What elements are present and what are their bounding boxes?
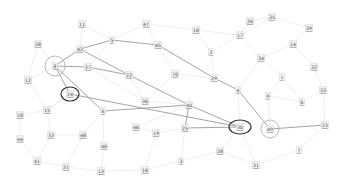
node-34[interactable]: 34: [257, 55, 265, 62]
node-9[interactable]: 9: [266, 93, 271, 100]
node-33[interactable]: 33: [319, 87, 327, 94]
node-14[interactable]: 14: [289, 41, 297, 48]
edge: [112, 24, 146, 40]
node-6b[interactable]: 6: [101, 108, 106, 115]
node-27[interactable]: 27: [84, 64, 92, 71]
edge: [181, 151, 220, 161]
node-label: 38: [35, 42, 41, 47]
node-46[interactable]: 46: [132, 124, 140, 131]
node-label: 40: [186, 103, 192, 108]
node-label: 28: [217, 149, 223, 154]
node-label: 39: [306, 26, 312, 31]
node-label: 26: [247, 19, 253, 24]
node-label: 6: [102, 109, 105, 114]
node-22[interactable]: 22: [125, 72, 133, 79]
node-17[interactable]: 17: [236, 32, 244, 39]
nodes: 1147182635173938545422143482722702912321…: [16, 14, 329, 175]
node-label: 4: [237, 88, 240, 93]
node-25[interactable]: 25: [181, 125, 189, 132]
edge: [211, 35, 240, 52]
node-label: 1: [281, 75, 284, 80]
node-32[interactable]: 32: [310, 64, 318, 71]
edge: [240, 127, 256, 165]
node-label: 47: [143, 22, 149, 27]
edge: [220, 151, 256, 165]
node-23[interactable]: 23: [321, 122, 329, 129]
node-38[interactable]: 38: [34, 41, 42, 48]
edge: [145, 133, 156, 170]
edge: [261, 44, 293, 58]
node-15[interactable]: 15: [43, 107, 51, 114]
edge: [268, 96, 270, 129]
node-46b[interactable]: 46: [100, 143, 108, 150]
node-label: 44: [17, 137, 23, 142]
edge: [196, 30, 240, 35]
node-label: 48: [80, 133, 86, 138]
node-label: 18: [193, 28, 199, 33]
node-35[interactable]: 35: [268, 14, 276, 21]
node-70[interactable]: 70: [171, 71, 179, 78]
node-7[interactable]: 7: [297, 147, 302, 154]
node-19[interactable]: 19: [152, 130, 160, 137]
node-6[interactable]: 6: [300, 99, 305, 106]
node-28[interactable]: 28: [216, 148, 224, 155]
node-40[interactable]: 40: [185, 102, 193, 109]
edge: [66, 135, 83, 167]
node-44[interactable]: 44: [16, 136, 24, 143]
node-21[interactable]: 21: [62, 164, 70, 171]
node-30[interactable]: 30: [236, 124, 244, 131]
node-42[interactable]: 42: [76, 46, 84, 53]
node-45[interactable]: 45: [154, 42, 162, 49]
network-graph: 1147182635173938545422143482722702912321…: [0, 0, 342, 183]
node-11[interactable]: 11: [78, 21, 86, 28]
node-26[interactable]: 26: [246, 18, 254, 25]
node-label: 49: [267, 127, 273, 132]
edge: [238, 58, 261, 90]
highlighted-edge: [80, 40, 112, 49]
node-label: 46: [133, 125, 139, 130]
node-31[interactable]: 31: [252, 162, 260, 169]
node-label: 21: [63, 165, 69, 170]
node-13[interactable]: 13: [97, 168, 105, 175]
node-label: 46: [101, 144, 107, 149]
edge: [146, 24, 196, 30]
node-label: 12: [25, 78, 31, 83]
node-4[interactable]: 4: [236, 87, 241, 94]
node-2[interactable]: 2: [209, 49, 214, 56]
highlighted-edge: [185, 127, 240, 128]
node-label: 35: [269, 15, 275, 20]
node-label: 13: [98, 169, 104, 174]
node-label: 7: [298, 148, 301, 153]
node-label: 70: [172, 72, 178, 77]
node-32b[interactable]: 32: [47, 132, 55, 139]
highlighted-edge: [238, 90, 270, 129]
node-label: 16: [142, 168, 148, 173]
node-1[interactable]: 1: [280, 74, 285, 81]
node-label: 32: [48, 133, 54, 138]
node-5[interactable]: 5: [110, 37, 115, 44]
edge: [28, 66, 55, 80]
node-49[interactable]: 49: [266, 126, 274, 133]
highlighted-edge: [189, 105, 240, 127]
edge: [272, 17, 309, 28]
node-3[interactable]: 3: [179, 158, 184, 165]
node-39[interactable]: 39: [305, 25, 313, 32]
highlighted-edge: [158, 45, 214, 78]
edge: [156, 128, 185, 133]
node-48[interactable]: 48: [79, 132, 87, 139]
node-41[interactable]: 41: [33, 158, 41, 165]
node-18[interactable]: 18: [192, 27, 200, 34]
node-label: 3: [180, 159, 183, 164]
node-12[interactable]: 12: [24, 77, 32, 84]
node-label: 31: [253, 163, 259, 168]
node-8[interactable]: 8: [53, 63, 58, 70]
node-47[interactable]: 47: [142, 21, 150, 28]
node-label: 9: [267, 94, 270, 99]
node-29[interactable]: 29: [210, 75, 218, 82]
node-16[interactable]: 16: [141, 167, 149, 174]
node-label: 45: [155, 43, 161, 48]
node-36[interactable]: 36: [141, 98, 149, 105]
node-24[interactable]: 24: [66, 91, 74, 98]
highlighted-edge: [112, 40, 158, 45]
node-18b[interactable]: 18: [16, 112, 24, 119]
